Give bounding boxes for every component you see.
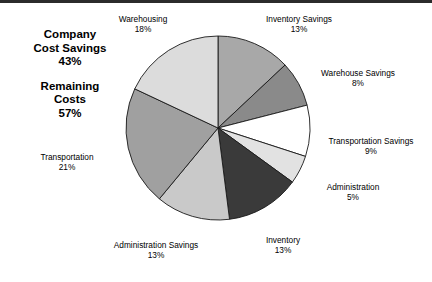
summary-text-block: Company Cost Savings 43% Remaining Costs… xyxy=(18,28,122,131)
slice-label-name: Administration Savings xyxy=(114,240,198,250)
pie-chart-figure: Company Cost Savings 43% Remaining Costs… xyxy=(0,0,432,282)
slice-label-percent: 13% xyxy=(250,245,316,255)
slice-label: Inventory13% xyxy=(250,235,316,255)
slice-label-percent: 13% xyxy=(92,250,220,260)
slice-label-name: Warehousing xyxy=(119,14,168,24)
remaining-costs-label-line2: Costs xyxy=(18,93,122,107)
company-cost-savings-label-line2: Cost Savings xyxy=(18,42,122,56)
slice-label-name: Inventory xyxy=(266,235,300,245)
slice-label: Inventory Savings13% xyxy=(250,14,348,34)
slice-label: Administration Savings13% xyxy=(92,240,220,260)
slice-label-percent: 13% xyxy=(250,24,348,34)
slice-label-name: Warehouse Savings xyxy=(321,68,395,78)
slice-label: Warehouse Savings8% xyxy=(306,68,410,88)
remaining-costs-label-line1: Remaining xyxy=(18,80,122,94)
slice-label-percent: 21% xyxy=(26,162,108,172)
top-border-bar xyxy=(0,0,432,3)
pie-svg xyxy=(124,30,314,226)
slice-label-percent: 5% xyxy=(312,192,394,202)
pie-graphic xyxy=(124,30,314,226)
slice-label-percent: 9% xyxy=(312,146,430,156)
slice-label: Administration5% xyxy=(312,182,394,202)
slice-label-name: Inventory Savings xyxy=(266,14,332,24)
slice-label: Transportation Savings9% xyxy=(312,136,430,156)
slice-label-name: Administration xyxy=(327,182,380,192)
slice-label-name: Transportation xyxy=(40,152,93,162)
slice-label-percent: 18% xyxy=(104,24,182,34)
company-cost-savings-value: 43% xyxy=(18,55,122,69)
remaining-costs-group: Remaining Costs 57% xyxy=(18,80,122,121)
slice-label: Warehousing18% xyxy=(104,14,182,34)
slice-label-name: Transportation Savings xyxy=(328,136,413,146)
slice-label-percent: 8% xyxy=(306,78,410,88)
slice-label: Transportation21% xyxy=(26,152,108,172)
remaining-costs-value: 57% xyxy=(18,107,122,121)
